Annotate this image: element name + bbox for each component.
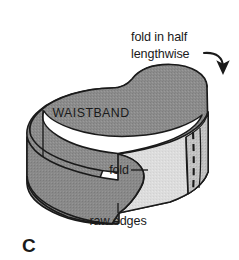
waistband-diagram-svg: fold in half lengthwise WAISTBAND fold r… <box>0 0 239 260</box>
fold-label: fold <box>109 163 129 177</box>
waistband-figure: fold in half lengthwise WAISTBAND fold r… <box>0 0 239 260</box>
waistband-label: WAISTBAND <box>52 106 129 120</box>
curved-arrow-icon <box>204 53 223 67</box>
raw-edges-label: raw edges <box>89 214 146 228</box>
panel-letter-label: C <box>22 235 36 256</box>
band-group <box>27 64 208 224</box>
callout-label-line1: fold in half <box>131 30 188 44</box>
callout-label-line2: lengthwise <box>131 47 190 61</box>
